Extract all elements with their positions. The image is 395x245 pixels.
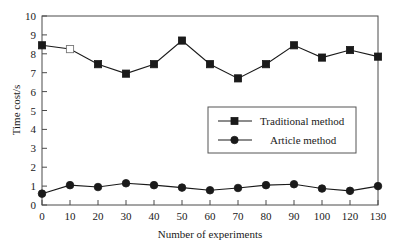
square-marker xyxy=(231,118,238,125)
x-tick-label: 60 xyxy=(205,210,217,222)
y-axis-ticks: 109876543210 xyxy=(25,10,47,211)
data-point-square xyxy=(290,42,297,49)
legend-label-article: Article method xyxy=(270,134,337,146)
x-tick-label: 50 xyxy=(177,210,189,222)
series-article xyxy=(38,179,382,197)
y-tick-label: 7 xyxy=(31,67,37,79)
x-tick-label: 0 xyxy=(39,210,45,222)
x-tick-label: 70 xyxy=(233,210,245,222)
y-tick-label: 4 xyxy=(31,123,37,135)
y-tick-label: 2 xyxy=(31,161,37,173)
x-axis-title: Number of experiments xyxy=(158,228,262,240)
data-point-circle xyxy=(66,181,74,189)
data-point-circle xyxy=(150,181,158,189)
data-point-circle xyxy=(206,186,214,194)
data-point-circle xyxy=(38,190,46,198)
y-tick-label: 3 xyxy=(31,142,37,154)
y-tick-label: 8 xyxy=(31,48,37,60)
x-tick-label: 20 xyxy=(93,210,105,222)
data-point-square xyxy=(38,42,45,49)
data-point-circle xyxy=(122,179,130,187)
data-point-square xyxy=(122,70,129,77)
y-tick-label: 1 xyxy=(31,180,37,192)
chart-legend: Traditional method Article method xyxy=(208,107,356,153)
data-point-square xyxy=(374,53,381,60)
series-traditional xyxy=(38,37,381,82)
x-axis-ticks: 0102030405060708090100120130 xyxy=(39,200,387,222)
data-point-circle xyxy=(346,187,354,195)
data-point-square xyxy=(234,75,241,82)
y-tick-label: 10 xyxy=(25,10,37,22)
x-tick-label: 130 xyxy=(370,210,387,222)
x-tick-label: 10 xyxy=(65,210,77,222)
y-tick-label: 5 xyxy=(31,105,37,117)
data-point-circle xyxy=(290,180,298,188)
series-line xyxy=(42,41,378,79)
data-point-circle xyxy=(178,184,186,192)
x-tick-label: 40 xyxy=(149,210,161,222)
y-tick-label: 9 xyxy=(31,29,37,41)
data-point-square xyxy=(66,45,73,52)
x-tick-label: 80 xyxy=(261,210,273,222)
data-point-circle xyxy=(234,184,242,192)
circle-marker xyxy=(231,136,238,143)
data-point-square xyxy=(150,61,157,68)
data-point-circle xyxy=(318,185,326,193)
data-point-square xyxy=(346,46,353,53)
data-point-square xyxy=(206,61,213,68)
x-tick-label: 120 xyxy=(342,210,359,222)
data-point-square xyxy=(262,61,269,68)
data-point-square xyxy=(178,37,185,44)
legend-box xyxy=(208,107,356,153)
x-tick-label: 90 xyxy=(289,210,301,222)
data-point-circle xyxy=(94,183,102,191)
data-point-square xyxy=(318,54,325,61)
y-axis-title: Time cost/s xyxy=(10,85,22,136)
data-point-circle xyxy=(374,182,382,190)
data-point-circle xyxy=(262,181,270,189)
y-tick-label: 0 xyxy=(31,199,37,211)
legend-label-traditional: Traditional method xyxy=(260,115,345,127)
data-point-square xyxy=(94,61,101,68)
line-chart: 109876543210 010203040506070809010012013… xyxy=(0,0,395,245)
x-tick-label: 100 xyxy=(314,210,331,222)
y-tick-label: 6 xyxy=(31,86,37,98)
x-tick-label: 30 xyxy=(121,210,133,222)
chart-figure: 109876543210 010203040506070809010012013… xyxy=(0,0,395,245)
